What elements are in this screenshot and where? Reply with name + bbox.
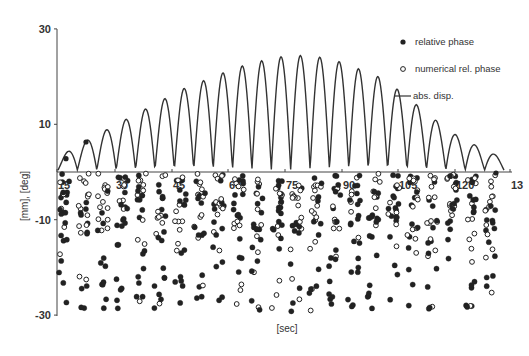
relative-phase-point	[448, 227, 453, 232]
numerical-rel-phase-point	[141, 183, 146, 188]
numerical-rel-phase-point	[174, 209, 179, 214]
numerical-rel-phase-point	[236, 184, 241, 189]
numerical-rel-phase-point	[217, 248, 222, 253]
numerical-rel-phase-point	[331, 204, 336, 209]
relative-phase-point	[122, 190, 127, 195]
numerical-rel-phase-point	[395, 183, 400, 188]
legend: relative phase numerical rel. phase abs.…	[394, 36, 501, 101]
relative-phase-point	[316, 232, 321, 237]
relative-phase-point	[163, 214, 168, 219]
y-tick-label: 30	[39, 23, 51, 35]
relative-phase-point	[122, 221, 127, 226]
numerical-rel-phase-point	[489, 184, 494, 189]
relative-phase-point	[115, 223, 120, 228]
relative-phase-point	[178, 274, 183, 279]
relative-phase-point	[345, 297, 350, 302]
relative-phase-point	[260, 196, 265, 201]
legend-label-abs-disp: abs. disp.	[413, 90, 454, 101]
numerical-rel-phase-point	[160, 221, 165, 226]
relative-phase-point	[297, 286, 302, 291]
numerical-rel-phase-point	[415, 197, 420, 202]
relative-phase-point	[426, 251, 431, 256]
numerical-rel-phase-point	[433, 248, 438, 253]
relative-phase-point	[119, 202, 124, 207]
numerical-rel-phase-point	[315, 203, 320, 208]
numerical-rel-phase-point	[199, 213, 204, 218]
numerical-rel-phase-point	[270, 306, 275, 311]
numerical-rel-phase-point	[394, 210, 399, 215]
relative-phase-point	[388, 297, 393, 302]
numerical-rel-phase-point	[195, 172, 200, 177]
relative-phase-point	[333, 189, 338, 194]
relative-phase-point	[279, 199, 284, 204]
numerical-rel-phase-point	[137, 299, 142, 304]
numerical-rel-phase-point	[413, 236, 418, 241]
numerical-rel-phase-point	[238, 288, 243, 293]
numerical-rel-phase-point	[58, 180, 63, 185]
relative-phase-point	[351, 239, 356, 244]
numerical-rel-phase-point	[296, 203, 301, 208]
numerical-rel-phase-point	[428, 173, 433, 178]
numerical-rel-phase-point	[85, 213, 90, 218]
relative-phase-point	[237, 236, 242, 241]
numerical-rel-phase-point	[84, 223, 89, 228]
relative-phase-point	[220, 226, 225, 231]
numerical-rel-phase-point	[386, 212, 391, 217]
relative-phase-point	[58, 207, 63, 212]
numerical-rel-phase-point	[219, 197, 224, 202]
relative-phase-point	[471, 205, 476, 210]
relative-phase-point	[493, 208, 498, 213]
numerical-rel-phase-point	[96, 217, 101, 222]
numerical-rel-phase-point	[394, 222, 399, 227]
numerical-rel-phase-point	[314, 215, 319, 220]
relative-phase-point	[64, 300, 69, 305]
relative-phase-point	[472, 279, 477, 284]
relative-phase-point	[297, 224, 302, 229]
relative-phase-point	[125, 206, 130, 211]
numerical-rel-phase-point	[241, 187, 246, 192]
relative-phase-point	[366, 291, 371, 296]
relative-phase-point	[369, 306, 374, 311]
relative-phase-point	[214, 264, 219, 269]
relative-phase-point	[194, 296, 199, 301]
numerical-rel-phase-point	[255, 191, 260, 196]
relative-phase-point	[270, 226, 275, 231]
relative-phase-point	[355, 183, 360, 188]
numerical-rel-phase-point	[140, 218, 145, 223]
relative-phase-point	[196, 232, 201, 237]
relative-phase-point	[256, 184, 261, 189]
legend-label-relative-phase: relative phase	[415, 36, 474, 47]
relative-phase-point	[240, 173, 245, 178]
relative-phase-point	[84, 200, 89, 205]
relative-phase-point	[290, 300, 295, 305]
numerical-rel-phase-point	[177, 227, 182, 232]
relative-phase-point	[328, 255, 333, 260]
y-tick-label: -10	[35, 214, 51, 226]
relative-phase-point	[367, 283, 372, 288]
numerical-rel-phase-point	[349, 209, 354, 214]
relative-phase-point	[349, 304, 354, 309]
relative-phase-point	[354, 191, 359, 196]
relative-phase-point	[135, 197, 140, 202]
relative-phase-point	[63, 220, 68, 225]
relative-phase-point	[447, 174, 452, 179]
y-tick-label: -30	[35, 309, 51, 321]
relative-phase-point	[220, 260, 225, 265]
relative-phase-point	[141, 266, 146, 271]
relative-phase-point	[212, 206, 217, 211]
relative-phase-point	[180, 283, 185, 288]
numerical-rel-phase-point	[407, 176, 412, 181]
numerical-rel-phase-point	[313, 239, 318, 244]
relative-phase-point	[387, 234, 392, 239]
relative-phase-point	[333, 173, 338, 178]
relative-phase-point	[255, 259, 260, 264]
relative-phase-point	[236, 269, 241, 274]
relative-phase-point	[255, 201, 260, 206]
relative-phase-point	[395, 272, 400, 277]
relative-phase-point	[236, 212, 241, 217]
relative-phase-point	[277, 246, 282, 251]
relative-phase-point	[140, 207, 145, 212]
numerical-rel-phase-point	[394, 244, 399, 249]
relative-phase-point	[160, 194, 165, 199]
relative-phase-point	[64, 237, 69, 242]
